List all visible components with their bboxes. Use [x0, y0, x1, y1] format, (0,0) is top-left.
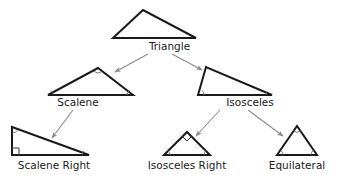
- node-label-equilateral: Equilateral: [255, 160, 339, 171]
- node-label-isosceles: Isosceles: [190, 97, 310, 108]
- equilateral-angle-arc-apex-icon: [294, 131, 301, 132]
- scalene-right-angle-square-icon: [12, 148, 19, 155]
- node-label-triangle: Triangle: [0, 41, 339, 52]
- node-label-isosceles-right: Isosceles Right: [128, 160, 246, 171]
- isosceles-right-angle-square-icon: [183, 137, 192, 142]
- scalene-shape: [48, 68, 133, 95]
- scalene-right-shape: [12, 127, 89, 155]
- node-label-scalene-right: Scalene Right: [0, 160, 108, 171]
- isosceles-shape: [198, 67, 272, 95]
- isosceles-right-shape: [164, 132, 210, 155]
- shape-layer: [0, 0, 339, 183]
- triangle-classification-diagram: Triangle Scalene Isosceles Scalene Right…: [0, 0, 339, 183]
- node-label-scalene: Scalene: [18, 97, 138, 108]
- triangle-shape: [113, 10, 196, 38]
- equilateral-shape: [277, 126, 317, 155]
- scalene-angle-arc-apex-icon: [94, 72, 101, 73]
